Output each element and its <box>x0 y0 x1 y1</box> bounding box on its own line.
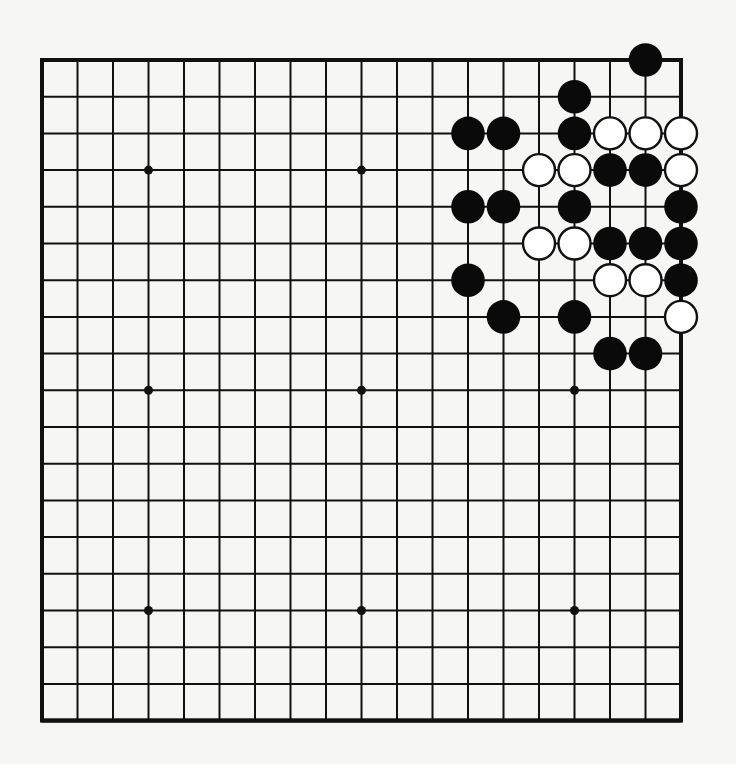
black-stone <box>558 190 592 224</box>
star-point <box>570 606 579 615</box>
black-stone <box>558 117 592 151</box>
black-stone <box>629 153 663 187</box>
black-stone <box>558 80 592 114</box>
black-stone <box>558 300 592 334</box>
black-stone <box>487 190 521 224</box>
white-stone <box>594 117 626 149</box>
black-stone <box>629 337 663 371</box>
black-stone <box>593 153 627 187</box>
star-point <box>357 166 366 175</box>
black-stone <box>451 117 485 151</box>
black-stone <box>487 300 521 334</box>
white-stone <box>665 117 697 149</box>
black-stone <box>487 117 521 151</box>
white-stone <box>630 264 662 296</box>
black-stone <box>664 190 698 224</box>
white-stone <box>523 228 555 260</box>
black-stone <box>629 43 663 77</box>
go-board <box>0 0 736 764</box>
black-stone <box>593 337 627 371</box>
white-stone <box>630 117 662 149</box>
black-stone <box>629 227 663 261</box>
black-stone <box>664 227 698 261</box>
black-stone <box>451 263 485 297</box>
black-stone <box>664 263 698 297</box>
black-stone <box>593 227 627 261</box>
white-stone <box>594 264 626 296</box>
black-stone <box>451 190 485 224</box>
star-point <box>144 386 153 395</box>
star-point <box>144 166 153 175</box>
star-point <box>357 606 366 615</box>
go-board-svg <box>0 0 736 764</box>
white-stone <box>559 154 591 186</box>
white-stone <box>665 301 697 333</box>
star-point <box>144 606 153 615</box>
white-stone <box>665 154 697 186</box>
star-point <box>357 386 366 395</box>
white-stone <box>559 228 591 260</box>
star-point <box>570 386 579 395</box>
white-stone <box>523 154 555 186</box>
